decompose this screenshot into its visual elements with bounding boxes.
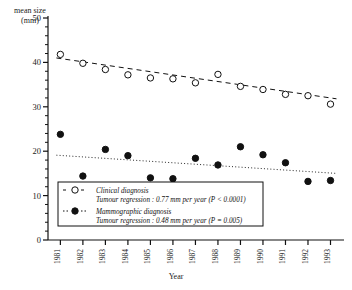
data-point-open: [102, 66, 108, 72]
y-tick-label: 0: [37, 235, 41, 245]
x-tick-label: 1982: [76, 249, 85, 264]
plot-area: 0102030405019811982198319841985198619871…: [0, 0, 352, 290]
data-point-filled: [260, 152, 266, 158]
legend-label: Clinical diagnosis: [96, 187, 149, 195]
data-point-open: [147, 75, 153, 81]
data-point-open: [192, 80, 198, 86]
trendline-0: [56, 58, 336, 99]
x-tick-label: 1993: [323, 249, 332, 264]
data-point-filled: [192, 155, 198, 161]
data-point-filled: [305, 178, 311, 184]
data-point-filled: [57, 131, 63, 137]
data-point-filled: [80, 173, 86, 179]
data-point-open: [305, 93, 311, 99]
series-clinical: [57, 51, 334, 107]
x-tick-label: 1991: [278, 249, 287, 264]
data-point-open: [237, 83, 243, 89]
x-tick-label: 1987: [188, 249, 197, 264]
data-point-filled: [102, 146, 108, 152]
data-point-open: [282, 91, 288, 97]
data-point-filled: [237, 144, 243, 150]
x-tick-label: 1989: [233, 249, 242, 264]
y-tick-label: 40: [33, 57, 42, 67]
y-tick-label: 50: [33, 13, 42, 23]
data-point-filled: [125, 152, 131, 158]
data-point-filled: [327, 177, 333, 183]
legend-stat: Tumour regression : 0.48 mm per year (P …: [96, 217, 243, 225]
data-point-open: [125, 72, 131, 78]
legend-marker-filled-circle-icon: [72, 208, 78, 214]
legend-stat: Tumour regression : 0.77 mm per year (P …: [96, 196, 246, 204]
x-tick-label: 1984: [121, 249, 130, 264]
data-point-filled: [170, 176, 176, 182]
x-tick-label: 1988: [211, 249, 220, 264]
data-point-open: [57, 51, 63, 57]
data-point-open: [260, 86, 266, 92]
x-tick-label: 1985: [143, 249, 152, 264]
y-tick-label: 30: [33, 102, 42, 112]
legend-marker-open-circle-icon: [72, 187, 78, 193]
data-point-open: [327, 101, 333, 107]
data-point-open: [170, 76, 176, 82]
legend-label: Mammographic diagnosis: [95, 208, 171, 216]
data-point-filled: [215, 162, 221, 168]
data-point-filled: [147, 175, 153, 181]
x-tick-label: 1990: [256, 249, 265, 264]
data-point-open: [80, 60, 86, 66]
x-tick-label: 1981: [53, 249, 62, 264]
figure: mean size (mm) Year 01020304050198119821…: [0, 0, 352, 290]
x-tick-label: 1983: [98, 249, 107, 264]
x-tick-label: 1986: [166, 249, 175, 264]
data-point-filled: [282, 160, 288, 166]
x-tick-label: 1992: [301, 249, 310, 264]
y-tick-label: 10: [33, 191, 42, 201]
data-point-open: [215, 71, 221, 77]
y-tick-label: 20: [33, 146, 42, 156]
